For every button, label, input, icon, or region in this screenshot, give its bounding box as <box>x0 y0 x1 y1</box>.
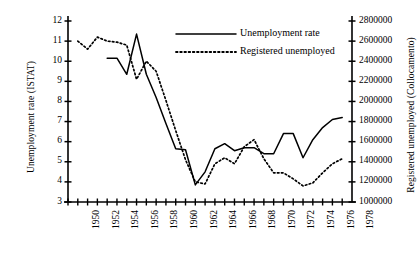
legend-label-1: Unemployment rate <box>240 27 320 38</box>
legend-label-2: Registered unemployed <box>240 45 335 56</box>
series-line-1 <box>107 34 342 185</box>
chart-figure: Unemployment rate (ISTAT) Registered une… <box>0 0 418 259</box>
plot-area <box>0 0 418 259</box>
